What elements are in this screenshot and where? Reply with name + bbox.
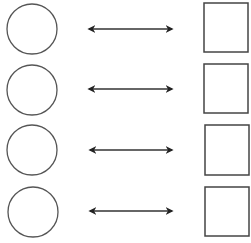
diagram-canvas — [0, 0, 251, 243]
diagram-row-3 — [7, 125, 249, 175]
diagram-row-1 — [7, 3, 248, 54]
circle-shape — [7, 4, 57, 54]
square-shape — [205, 187, 249, 236]
square-shape — [204, 3, 248, 52]
circle-shape — [7, 125, 57, 175]
square-shape — [204, 64, 248, 113]
square-shape — [205, 125, 249, 175]
circle-shape — [8, 187, 58, 237]
diagram-row-4 — [8, 187, 249, 237]
diagram-row-2 — [7, 64, 248, 115]
circle-shape — [7, 65, 57, 115]
figure-caption — [70, 238, 180, 243]
